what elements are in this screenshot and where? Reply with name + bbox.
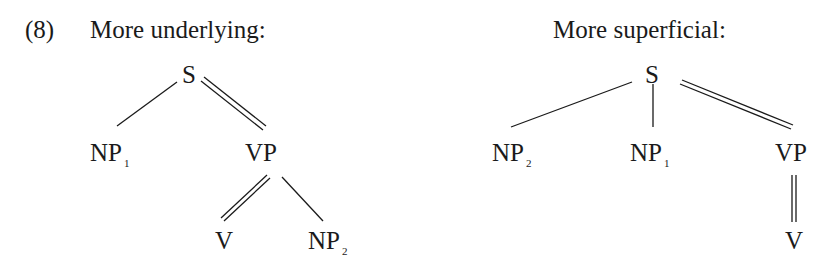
- node-subscript: 1: [124, 157, 130, 169]
- node-subscript: 2: [526, 157, 532, 169]
- edge-vp-v-a: [221, 175, 267, 218]
- node-label: V: [215, 227, 233, 254]
- superficial-node-vp: VP: [775, 140, 807, 165]
- superficial-node-np2: NP2: [492, 140, 531, 165]
- edge-vp-v-b: [224, 178, 270, 221]
- superficial-node-v: V: [785, 228, 803, 253]
- node-subscript: 2: [342, 245, 348, 257]
- underlying-node-np2: NP2: [308, 228, 347, 253]
- node-label: NP: [492, 139, 524, 166]
- node-label: S: [182, 61, 196, 88]
- node-label: S: [645, 61, 659, 88]
- node-label: NP: [90, 139, 122, 166]
- underlying-node-v: V: [215, 228, 233, 253]
- underlying-node-np1: NP1: [90, 140, 129, 165]
- superficial-node-np1: NP1: [630, 140, 669, 165]
- node-label: V: [785, 227, 803, 254]
- node-label: NP: [630, 139, 662, 166]
- edge-s-vp-b: [680, 84, 791, 129]
- edge-s-vp-a: [204, 77, 266, 126]
- edge-s-vp-a: [682, 80, 793, 125]
- syntax-tree-figure: (8) More underlying: More superficial:: [0, 0, 832, 262]
- superficial-node-s: S: [645, 62, 659, 87]
- edge-s-vp-b: [201, 81, 263, 130]
- edge-s-np2: [511, 82, 632, 127]
- underlying-node-s: S: [182, 62, 196, 87]
- tree-edges: [0, 0, 832, 262]
- node-label: VP: [245, 139, 277, 166]
- node-subscript: 1: [664, 157, 670, 169]
- node-label: VP: [775, 139, 807, 166]
- underlying-node-vp: VP: [245, 140, 277, 165]
- underlying-tree-edges: [117, 77, 323, 221]
- edge-s-np1: [117, 82, 177, 126]
- node-label: NP: [308, 227, 340, 254]
- edge-vp-np2: [282, 177, 323, 221]
